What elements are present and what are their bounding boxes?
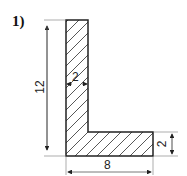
l-profile-shape xyxy=(66,20,153,156)
horizontal-leg-height-label: 2 xyxy=(155,138,169,150)
vertical-leg-width-label: 2 xyxy=(72,70,79,84)
height-label: 12 xyxy=(33,77,47,97)
height-dimension xyxy=(44,20,66,156)
base-length-label: 8 xyxy=(104,158,111,172)
